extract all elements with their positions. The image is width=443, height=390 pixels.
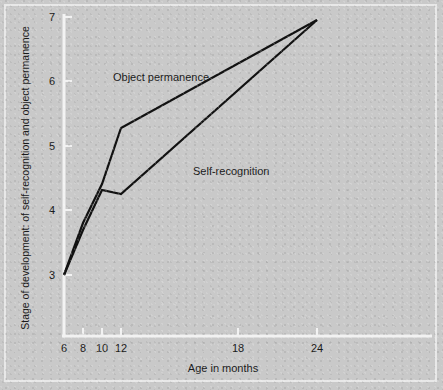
x-tick-label-8: 8 [80, 342, 86, 354]
y-tick-label-7: 7 [49, 11, 55, 23]
chart-canvas: 7 6 5 4 3 6 8 10 12 18 24 Age in months … [0, 0, 443, 390]
series-label-self-recognition: Self-recognition [193, 165, 269, 177]
x-tick-label-10: 10 [96, 342, 108, 354]
chart-figure: 7 6 5 4 3 6 8 10 12 18 24 Age in months … [0, 0, 443, 390]
series-line-self-recognition [64, 20, 317, 275]
y-tick-label-4: 4 [49, 204, 55, 216]
x-tick-label-12: 12 [115, 342, 127, 354]
y-tick-label-3: 3 [49, 269, 55, 281]
y-tick-label-5: 5 [49, 140, 55, 152]
x-tick-label-6: 6 [61, 342, 67, 354]
x-axis-title: Age in months [188, 362, 259, 374]
x-tick-label-24: 24 [311, 342, 323, 354]
series-label-object-permanence: Object permanence [113, 71, 209, 83]
series-line-object-permanence [64, 20, 317, 275]
x-tick-label-18: 18 [232, 342, 244, 354]
y-tick-label-6: 6 [49, 75, 55, 87]
y-axis-title: Stage of development: of self-recognitio… [19, 26, 31, 330]
